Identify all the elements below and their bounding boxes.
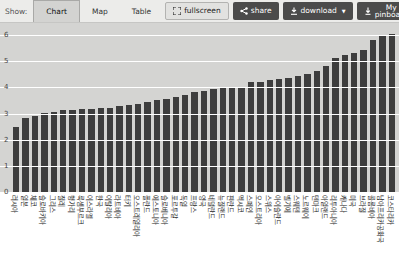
x-label-cell: 프랑스: [191, 193, 197, 254]
gridline-4: [0, 87, 399, 88]
plot-area: 0123456: [0, 23, 399, 193]
bar-덴마크[interactable]: [314, 71, 320, 193]
gridline-1: [0, 166, 399, 167]
bar-라트비아[interactable]: [116, 106, 122, 193]
x-tick-label: 남아프리카공화국: [376, 195, 386, 243]
x-tick-label: 칠레: [57, 195, 67, 207]
x-label-cell: 아이슬란드: [276, 193, 282, 254]
bar-프랑스[interactable]: [191, 92, 197, 193]
bar-한국[interactable]: [98, 108, 104, 193]
toolbar: Show: ChartMapTable fullscreen share dow…: [0, 0, 399, 23]
bar-오스트레일리아[interactable]: [135, 104, 141, 193]
bar-스페인[interactable]: [248, 82, 254, 193]
show-label: Show:: [5, 7, 27, 16]
bar-포르투갈[interactable]: [173, 97, 179, 193]
tab-chart[interactable]: Chart: [33, 0, 80, 22]
bar-칠레[interactable]: [60, 110, 66, 193]
tab-table[interactable]: Table: [120, 0, 163, 22]
bar-캐나다[interactable]: [342, 55, 348, 193]
x-label-cell: 벨기에: [285, 193, 291, 254]
chart-widget: Show: ChartMapTable fullscreen share dow…: [0, 0, 399, 254]
x-label-cell: 칠레: [60, 193, 66, 254]
bar-브라질[interactable]: [360, 50, 366, 193]
x-label-cell: 독일: [182, 193, 188, 254]
x-label-cell: 라트비아: [116, 193, 122, 254]
y-tick-label-4: 4: [4, 83, 8, 91]
y-tick-label-6: 6: [4, 31, 8, 39]
pinboard-button[interactable]: My pinboard ▼: [357, 2, 399, 20]
x-label-cell: 핀란드: [229, 193, 235, 254]
tab-map[interactable]: Map: [80, 0, 120, 22]
gridline-6: [0, 35, 399, 36]
bar-오스트리아[interactable]: [257, 82, 263, 193]
pinboard-label: My pinboard: [375, 4, 399, 19]
bar-영국[interactable]: [201, 91, 207, 193]
x-tick-label: 미국: [348, 195, 358, 207]
x-tick-label: 오스트리아: [254, 195, 264, 225]
share-nodes-icon: [240, 7, 248, 15]
share-button[interactable]: share: [233, 2, 279, 20]
x-label-cell: 슬로바키아: [41, 193, 47, 254]
bar-일본[interactable]: [22, 118, 28, 193]
x-label-cell: 남아프리카공화국: [379, 193, 385, 254]
bar-터키[interactable]: [126, 105, 132, 193]
x-axis-labels: 러시아일본체코슬로바키아그리스칠레헝가리룩셈부르크이스라엘한국이탈리아라트비아터…: [13, 193, 395, 254]
bar-슬로바키아[interactable]: [41, 113, 47, 193]
x-tick-label: 아이슬란드: [273, 195, 283, 225]
arrow-down-to-line-icon: [290, 7, 298, 15]
x-tick-label: 이스라엘: [85, 195, 95, 219]
x-label-cell: 슬로베니아: [163, 193, 169, 254]
bar-미국[interactable]: [351, 53, 357, 193]
download-button[interactable]: download ▼: [283, 2, 353, 20]
bar-리투아니아[interactable]: [332, 58, 338, 193]
bar-체코[interactable]: [32, 116, 38, 193]
bar-콜롬비아[interactable]: [370, 40, 376, 193]
x-tick-label: 코스타리카: [386, 195, 396, 225]
x-label-cell: 오스트리아: [257, 193, 263, 254]
y-tick-label-5: 5: [4, 57, 8, 65]
x-label-cell: 브라질: [360, 193, 366, 254]
bar-네덜란드[interactable]: [210, 89, 216, 193]
y-tick-label-1: 1: [4, 162, 8, 170]
expand-arrows-icon: [173, 7, 181, 15]
bar-이스라엘[interactable]: [88, 109, 94, 193]
pin-icon: [364, 7, 372, 15]
x-tick-label: 오스트레일리아: [132, 195, 142, 237]
download-label: download: [301, 7, 337, 15]
bar-chart: 0123456 러시아일본체코슬로바키아그리스칠레헝가리룩셈부르크이스라엘한국이…: [0, 23, 399, 254]
x-label-cell: 일본: [22, 193, 28, 254]
x-tick-label: 러시아: [10, 195, 20, 213]
bar-그리스[interactable]: [51, 112, 57, 193]
x-label-cell: 한국: [98, 193, 104, 254]
y-tick-label-2: 2: [4, 136, 8, 144]
bar-헝가리[interactable]: [69, 110, 75, 193]
bar-러시아[interactable]: [13, 127, 19, 193]
bar-벨기에[interactable]: [285, 78, 291, 193]
bar-노르웨이[interactable]: [304, 74, 310, 193]
gridline-2: [0, 140, 399, 141]
bar-이탈리아[interactable]: [107, 108, 113, 193]
x-tick-label: 독일: [179, 195, 189, 207]
x-tick-label: 핀란드: [226, 195, 236, 213]
x-label-cell: 네덜란드: [210, 193, 216, 254]
fullscreen-button[interactable]: fullscreen: [165, 2, 229, 20]
x-label-cell: 스위스: [267, 193, 273, 254]
bar-폴란드[interactable]: [144, 102, 150, 193]
x-tick-label: 라트비아: [113, 195, 123, 219]
bar-독일[interactable]: [182, 95, 188, 193]
share-label: share: [251, 7, 272, 15]
bar-룩셈부르크[interactable]: [79, 109, 85, 193]
bar-아이슬란드[interactable]: [276, 79, 282, 193]
gridline-5: [0, 61, 399, 62]
bar-스위스[interactable]: [267, 80, 273, 193]
y-tick-label-0: 0: [4, 188, 8, 196]
bar-아일랜드[interactable]: [323, 66, 329, 193]
x-label-cell: 그리스: [51, 193, 57, 254]
x-label-cell: 리투아니아: [332, 193, 338, 254]
x-tick-label: 슬로베니아: [160, 195, 170, 225]
x-label-cell: 멕시코: [238, 193, 244, 254]
x-label-cell: 헝가리: [69, 193, 75, 254]
bar-스웨덴[interactable]: [295, 76, 301, 193]
x-label-cell: 코스타리카: [389, 193, 395, 254]
x-label-cell: 이스라엘: [88, 193, 94, 254]
